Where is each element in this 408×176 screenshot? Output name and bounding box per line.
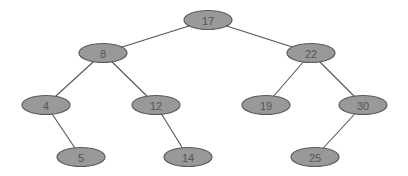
node-label: 25	[309, 152, 321, 164]
tree-node: 17	[184, 11, 232, 30]
tree-node: 5	[57, 148, 105, 167]
node-label: 5	[78, 152, 84, 164]
nodes: 17 8 22 4 12 19 30 5	[22, 11, 387, 167]
tree-node: 4	[22, 96, 70, 115]
tree-node: 25	[291, 148, 339, 167]
tree-node: 19	[242, 96, 290, 115]
node-label: 17	[202, 15, 214, 27]
node-label: 19	[260, 100, 272, 112]
node-label: 8	[100, 48, 106, 60]
tree-diagram: 17 8 22 4 12 19 30 5	[0, 0, 408, 176]
edges	[46, 20, 363, 157]
tree-node: 22	[287, 44, 335, 63]
tree-node: 12	[132, 96, 180, 115]
tree-node: 30	[339, 96, 387, 115]
node-label: 30	[357, 100, 369, 112]
tree-node: 14	[164, 148, 212, 167]
node-label: 12	[150, 100, 162, 112]
node-label: 22	[305, 48, 317, 60]
tree-node: 8	[79, 44, 127, 63]
node-label: 4	[43, 100, 49, 112]
node-label: 14	[182, 152, 194, 164]
